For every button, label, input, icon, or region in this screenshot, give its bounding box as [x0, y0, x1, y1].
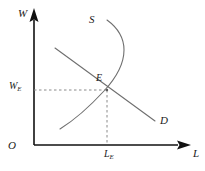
supply-demand-figure: W L O S D E WE LE — [0, 0, 205, 171]
equilibrium-labour-label: LE — [104, 149, 114, 161]
equilibrium-point-label: E — [96, 73, 102, 83]
x-axis-arrowhead-icon — [177, 141, 191, 150]
y-axis-arrowhead-icon — [30, 8, 39, 22]
equilibrium-wage-subscript: E — [17, 85, 21, 92]
equilibrium-wage-label: WE — [9, 81, 22, 93]
demand-curve — [55, 48, 155, 121]
plot-canvas — [0, 0, 205, 171]
equilibrium-labour-subscript: E — [110, 153, 114, 160]
supply-curve-label: S — [89, 14, 95, 25]
y-axis-label: W — [18, 8, 27, 19]
origin-label: O — [8, 140, 16, 151]
equilibrium-point-marker — [106, 89, 108, 91]
demand-curve-label: D — [160, 115, 168, 126]
x-axis-label: L — [193, 148, 199, 159]
